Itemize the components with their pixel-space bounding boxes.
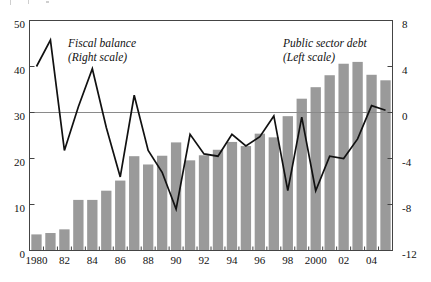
bar-1989	[157, 156, 167, 251]
y-right-tick-4: 4	[402, 65, 408, 76]
bar-1985	[101, 191, 111, 251]
bar-1994	[227, 142, 237, 251]
annotation-public-sector-debt-line2: (Left scale)	[283, 51, 367, 65]
bar-1996	[255, 134, 265, 251]
y-right-tick-0: 0	[402, 111, 408, 122]
bar-1995	[241, 146, 251, 250]
bar-1997	[269, 137, 279, 250]
bar-1992	[199, 155, 209, 250]
bar-1998	[283, 116, 293, 250]
top-edge-artifact	[0, 0, 431, 8]
axis-ticks-group	[30, 67, 393, 251]
annotation-public-sector-debt-line1: Public sector debt	[283, 37, 367, 51]
y-right-tick-neg12: -12	[402, 249, 417, 260]
bar-2005	[380, 80, 390, 250]
y-right-tick-neg4: -4	[402, 157, 411, 168]
annotation-public-sector-debt: Public sector debt (Left scale)	[283, 37, 367, 64]
bar-1987	[129, 156, 139, 250]
y-left-tick-50: 50	[7, 19, 25, 30]
bar-1984	[87, 200, 97, 251]
y-right-tick-neg8: -8	[402, 203, 411, 214]
bar-1980	[31, 234, 41, 250]
y-left-tick-20: 20	[7, 157, 25, 168]
bar-2004	[366, 75, 376, 251]
bar-1982	[59, 229, 69, 250]
annotation-fiscal-balance-line2: (Right scale)	[68, 51, 136, 65]
bar-1986	[115, 181, 125, 251]
y-left-tick-10: 10	[7, 203, 25, 214]
annotation-fiscal-balance: Fiscal balance (Right scale)	[68, 37, 136, 64]
y-left-tick-40: 40	[7, 65, 25, 76]
bar-1991	[185, 160, 195, 250]
bar-1990	[171, 142, 181, 250]
bar-1993	[213, 150, 223, 251]
bar-1983	[73, 200, 83, 251]
bar-1988	[143, 164, 153, 250]
chart-figure: 0 10 20 30 40 50 -12 -8 -4 0 4 8 1980828…	[0, 0, 431, 282]
annotation-fiscal-balance-line1: Fiscal balance	[68, 37, 136, 51]
y-right-tick-8: 8	[402, 19, 408, 30]
x-axis-label-04: 04	[352, 255, 392, 266]
bar-2003	[352, 62, 362, 251]
y-left-tick-30: 30	[7, 111, 25, 122]
bar-1981	[45, 233, 55, 250]
